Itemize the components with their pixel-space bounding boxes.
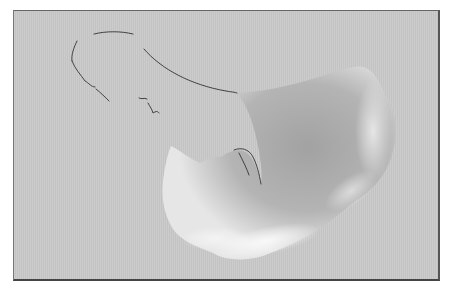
photo-frame bbox=[13, 10, 440, 281]
specimen-photo bbox=[14, 11, 440, 281]
